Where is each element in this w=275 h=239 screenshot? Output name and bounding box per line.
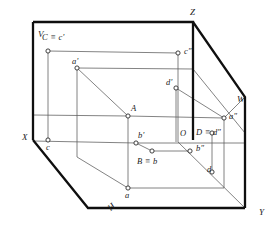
axis-label-Z: Z — [190, 8, 195, 17]
axis-label-Y: Y — [259, 208, 264, 217]
point-label-b1: b' — [138, 131, 144, 140]
axis-label-X: X — [22, 133, 28, 142]
point-label-D-d2: D ≡ d″ — [196, 128, 221, 137]
point-label-c2: c″ — [184, 47, 192, 56]
point-label-a1: a' — [72, 57, 78, 66]
point-label-d1: d' — [166, 78, 172, 87]
line-c1-c2 — [48, 51, 178, 53]
point-label-d: d — [207, 165, 211, 174]
point-A — [126, 114, 130, 118]
point-label-b2: b″ — [196, 144, 204, 153]
line-left-A — [33, 115, 128, 116]
line-d1-a2 — [176, 88, 224, 118]
point-C-c1 — [46, 49, 50, 53]
point-label-O: O — [180, 129, 186, 138]
projection-diagram: X Y Z V W H C ≡ c' c″ a' d' A a″ b' O D … — [0, 0, 275, 239]
line-a1-right — [77, 68, 193, 69]
point-B-b — [150, 149, 154, 153]
plane-label-W: W — [237, 95, 245, 104]
line-a1-A — [77, 68, 128, 116]
point-markers — [46, 49, 226, 190]
point-b1 — [134, 141, 138, 145]
point-label-A: A — [131, 104, 136, 113]
point-a1 — [75, 66, 79, 70]
line-b1-b — [136, 143, 152, 151]
point-label-B-b: B ≡ b — [137, 157, 157, 166]
point-d1 — [174, 86, 178, 90]
point-b2 — [188, 149, 192, 153]
line-a-diag — [77, 157, 128, 188]
point-label-a2: a″ — [229, 112, 237, 121]
point-label-a: a — [125, 191, 129, 200]
point-c2 — [176, 51, 180, 55]
point-label-c: c — [46, 143, 50, 152]
point-a2 — [222, 116, 226, 120]
point-label-C-c1: C ≡ c' — [42, 33, 64, 42]
